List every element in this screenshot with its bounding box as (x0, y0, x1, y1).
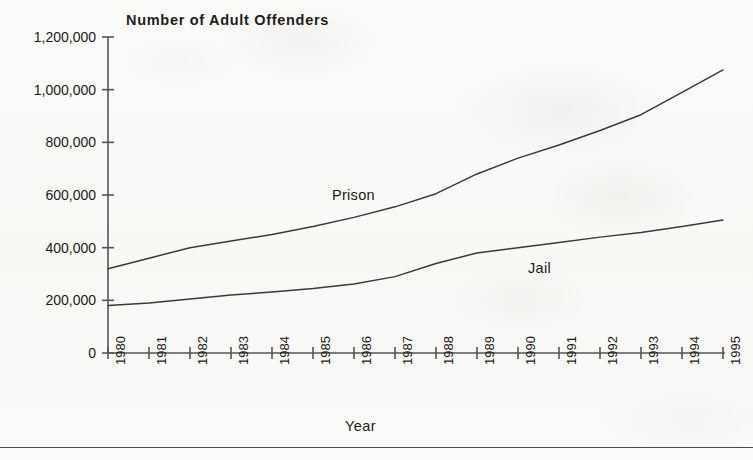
x-axis-tick-label: 1985 (318, 336, 333, 365)
y-axis-tick-label: 1,000,000 (34, 82, 96, 98)
y-axis-tick-label: 200,000 (45, 292, 96, 308)
axes-group (102, 37, 725, 359)
y-axis-tick-label: 1,200,000 (34, 29, 96, 45)
x-axis-tick-label: 1987 (400, 336, 415, 365)
x-axis-tick-label: 1986 (359, 336, 374, 365)
x-axis-tick-label: 1995 (728, 336, 743, 365)
y-axis-tick-label: 800,000 (45, 134, 96, 150)
x-axis-tick-label: 1984 (277, 336, 292, 365)
x-axis-tick-label: 1990 (523, 336, 538, 365)
x-axis-tick-label: 1981 (154, 336, 169, 365)
chart-page: Number of Adult Offenders 0200,000400,00… (0, 0, 753, 460)
series-label-prison: Prison (332, 187, 375, 203)
x-axis-tick-label: 1994 (687, 336, 702, 365)
y-axis-tick-label: 0 (88, 345, 96, 361)
x-axis-tick-label: 1989 (482, 336, 497, 365)
line-chart-plot (0, 0, 753, 460)
y-axis-tick-label: 600,000 (45, 187, 96, 203)
series-line-jail (108, 220, 723, 306)
x-axis-tick-label: 1982 (195, 336, 210, 365)
y-axis-tick-label: 400,000 (45, 240, 96, 256)
x-axis-title: Year (345, 418, 376, 434)
x-axis-tick-label: 1991 (564, 336, 579, 365)
data-series-group (108, 70, 723, 306)
x-axis-tick-label: 1992 (605, 336, 620, 365)
series-label-jail: Jail (528, 260, 551, 276)
x-axis-tick-label: 1988 (441, 336, 456, 365)
series-line-prison (108, 70, 723, 269)
x-axis-tick-label: 1980 (113, 336, 128, 365)
x-axis-tick-label: 1983 (236, 336, 251, 365)
x-axis-tick-label: 1993 (646, 336, 661, 365)
bottom-rule (0, 447, 753, 448)
